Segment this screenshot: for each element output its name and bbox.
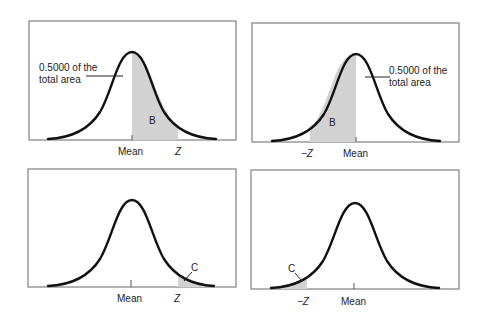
neg-z-label: −Z	[301, 148, 314, 159]
mean-label: Mean	[343, 148, 368, 159]
panel-frame	[251, 170, 459, 289]
neg-z-label: −Z	[297, 296, 310, 307]
region-label-c: C	[191, 262, 198, 273]
mean-label: Mean	[341, 296, 366, 307]
panel-top-right: B 0.5000 of the total area −Z Mean	[252, 23, 459, 159]
normal-curve	[271, 203, 439, 288]
z-label: Z	[173, 293, 181, 304]
panel-bottom-left: C Mean Z	[28, 169, 236, 304]
region-label-c: C	[288, 263, 295, 274]
callout-line-1: 0.5000 of the	[39, 62, 98, 73]
normal-curve	[48, 200, 214, 286]
callout-leader-c	[295, 273, 302, 281]
callout-line-1: 0.5000 of the	[389, 65, 448, 76]
region-label-b: B	[329, 117, 336, 128]
region-label-b: B	[149, 115, 156, 126]
mean-label: Mean	[117, 293, 142, 304]
panel-frame	[28, 169, 236, 287]
callout-line-2: total area	[39, 74, 81, 85]
z-label: Z	[174, 146, 182, 157]
shaded-region-b	[132, 52, 178, 140]
panel-top-left: B 0.5000 of the total area Mean Z	[29, 21, 236, 157]
shaded-region-b	[310, 54, 356, 142]
panel-bottom-right: C −Z Mean	[251, 170, 459, 307]
callout-line-2: total area	[389, 77, 431, 88]
mean-label: Mean	[118, 146, 143, 157]
